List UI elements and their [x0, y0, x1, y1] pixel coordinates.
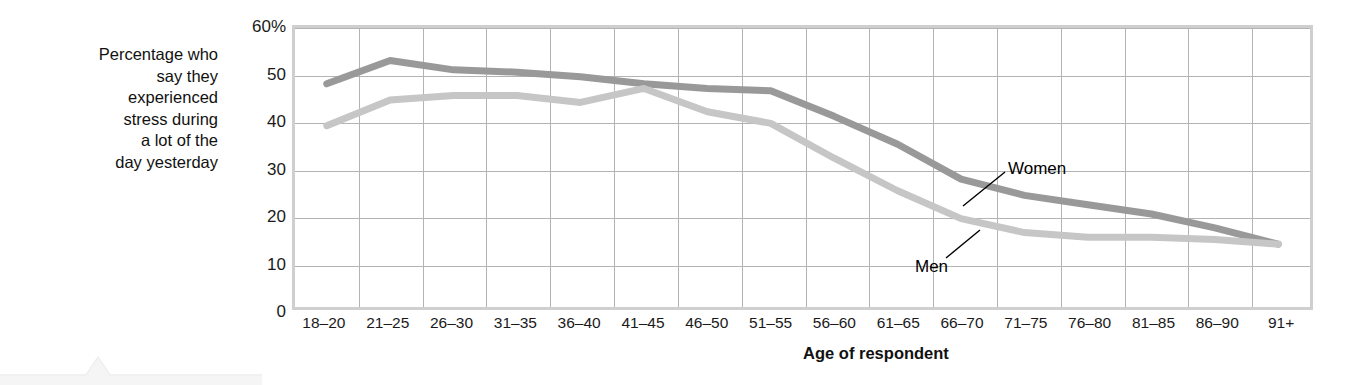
series-line-women	[327, 61, 1279, 245]
y-axis-tick: 30	[218, 160, 286, 177]
y-axis-caption-line: a lot of the	[30, 130, 218, 152]
series-label-women: Women	[1008, 160, 1066, 177]
y-axis-caption-line: day yesterday	[30, 152, 218, 174]
x-axis-tick-labels: 18–2021–2526–3031–3536–4041–4546–5051–55…	[0, 313, 1368, 339]
y-axis-caption-line: experienced	[30, 87, 218, 109]
series-line-men	[327, 88, 1279, 244]
y-axis-tick: 50	[218, 65, 286, 82]
y-axis-tick: 60%	[218, 18, 286, 35]
x-axis-tick: 91+	[1221, 313, 1341, 333]
y-axis-tick: 40	[218, 113, 286, 130]
y-axis-tick: 20	[218, 208, 286, 225]
x-axis-title-text: Age of respondent	[803, 344, 949, 363]
plot-area	[292, 25, 1313, 310]
series-lines	[295, 28, 1310, 307]
y-axis-tick: 10	[218, 255, 286, 272]
y-axis-caption: Percentage who say they experienced stre…	[30, 44, 218, 173]
series-label-men: Men	[915, 258, 948, 275]
y-axis-caption-line: stress during	[30, 109, 218, 131]
y-axis-caption-line: Percentage who	[30, 44, 218, 66]
y-axis-caption-line: say they	[30, 66, 218, 88]
decorative-callout	[0, 345, 262, 385]
